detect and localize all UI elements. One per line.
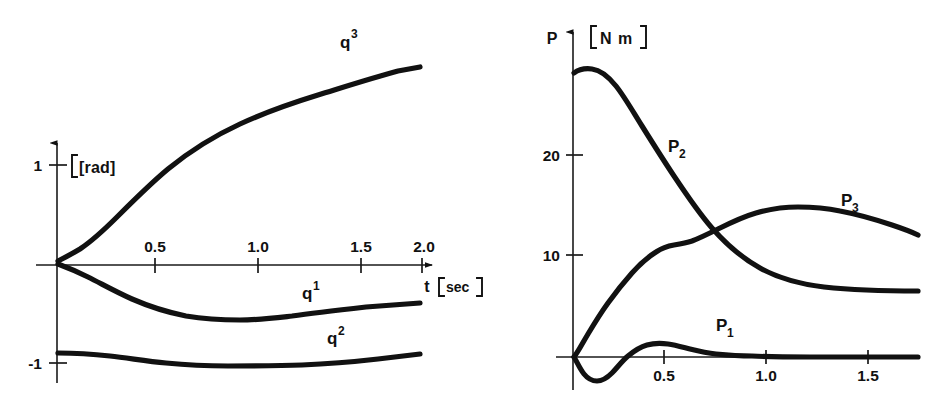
right-curve-label-p1: P 1 xyxy=(716,316,734,340)
right-curve-label-p1-base: P xyxy=(716,316,727,335)
right-curve-label-p2-base: P xyxy=(668,137,679,156)
left-x-tick-label-20: 2.0 xyxy=(413,238,435,255)
left-curve-label-q2-base: q xyxy=(327,329,337,348)
left-curve-q1 xyxy=(58,264,420,320)
left-y-unit-text: [rad] xyxy=(79,159,116,176)
left-curve-q2 xyxy=(58,353,420,366)
left-y-tick-label-minus1: -1 xyxy=(28,355,42,372)
right-y-unit-text: N m xyxy=(600,30,633,47)
right-curve-p2 xyxy=(574,69,918,291)
right-curve-label-p1-sub: 1 xyxy=(727,326,734,340)
left-x-tick-label-05: 0.5 xyxy=(144,238,166,255)
left-curve-label-q1-base: q xyxy=(302,284,312,303)
left-curve-label-q2-sup: 2 xyxy=(338,324,345,338)
right-y-tick-label-20: 20 xyxy=(543,147,560,164)
left-x-tick-label-15: 1.5 xyxy=(350,238,372,255)
left-x-unit-label: sec xyxy=(439,278,482,296)
right-curve-label-p3-sub: 3 xyxy=(852,201,859,215)
left-curve-label-q3: q 3 xyxy=(340,27,358,52)
left-y-unit-label: [rad] xyxy=(72,155,116,177)
left-x-unit-text: sec xyxy=(446,279,470,295)
left-x-axis-name: t xyxy=(424,278,430,295)
right-y-axis-name: P xyxy=(547,30,558,47)
left-curve-label-q3-base: q xyxy=(340,33,350,52)
right-y-unit-label: N m xyxy=(591,26,646,48)
right-curve-label-p3-base: P xyxy=(841,191,852,210)
figure-container: 1 -1 0.5 1.0 1.5 2.0 [rad] t sec q 3 q xyxy=(0,0,926,401)
right-x-tick-label-10: 1.0 xyxy=(755,367,777,384)
left-y-tick-label-1: 1 xyxy=(33,157,42,174)
right-x-tick-label-05: 0.5 xyxy=(653,367,675,384)
right-y-tick-label-10: 10 xyxy=(543,247,560,264)
right-chart-panel: 20 10 0.5 1.0 1.5 P N m P 2 P 3 P xyxy=(543,26,920,390)
left-curve-label-q2: q 2 xyxy=(327,324,345,348)
left-chart-panel: 1 -1 0.5 1.0 1.5 2.0 [rad] t sec q 3 q xyxy=(28,27,482,383)
right-curve-label-p2: P 2 xyxy=(668,137,686,161)
right-curve-p3 xyxy=(574,207,918,357)
left-curve-label-q1-sup: 1 xyxy=(313,279,320,293)
left-x-tick-label-10: 1.0 xyxy=(247,238,269,255)
right-x-tick-label-15: 1.5 xyxy=(857,367,879,384)
left-curve-label-q3-sup: 3 xyxy=(351,27,358,41)
right-curve-label-p2-sub: 2 xyxy=(679,147,686,161)
left-curve-label-q1: q 1 xyxy=(302,279,320,303)
